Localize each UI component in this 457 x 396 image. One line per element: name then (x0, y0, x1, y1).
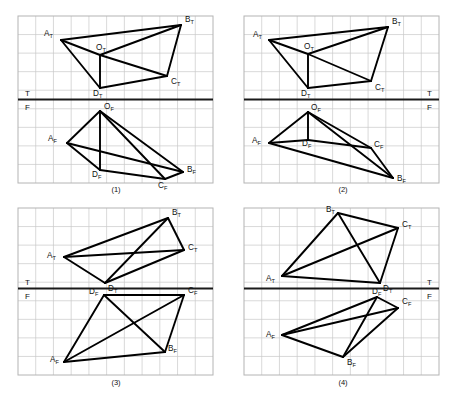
edge-B_F-O_F (100, 111, 183, 172)
vertex-label-A_F: AF (252, 136, 261, 146)
vertex-label-A_T: AT (47, 251, 56, 261)
vertex-label-subscript: F (194, 290, 198, 296)
vertex-label-subscript: T (331, 209, 335, 215)
edge-D_F-A_F (64, 295, 104, 362)
vertex-label-subscript: F (380, 144, 384, 150)
panel-2-top_view: ATBTCTDTOT (253, 17, 401, 99)
edge-B_T-D_T (105, 218, 168, 283)
panel-3-top_view: ATBTCTDT (47, 208, 198, 294)
panel-4-top_view: ATBTCTDT (266, 205, 412, 294)
vertex-label-O_T: OT (304, 42, 314, 52)
vertex-label-D_T: DT (383, 284, 393, 294)
panel-4-front_view: AFBFCFDF (266, 287, 412, 368)
panel-2-front-view-marker: F (427, 103, 432, 112)
edge-C_F-D_F (308, 140, 371, 148)
vertex-label-subscript: F (352, 362, 356, 368)
edge-C_T-D_T (308, 81, 371, 88)
vertex-label-A_T: AT (266, 274, 275, 284)
vertex-label-B_F: BF (397, 174, 406, 184)
panel-1-caption: (1) (111, 185, 121, 194)
panel-4-frame (244, 208, 439, 375)
panel-1-front_view: AFBFCFDFOF (48, 102, 196, 191)
panel-4: TFATBTCTDTAFBFCFDF(4) (244, 205, 439, 387)
vertex-label-C_T: CT (171, 77, 181, 87)
vertex-label-subscript: T (258, 34, 262, 40)
edge-C_F-O_F (100, 111, 165, 179)
vertex-label-subscript: F (53, 138, 57, 144)
vertex-label-A_F: AF (48, 134, 57, 144)
vertex-label-subscript: T (190, 19, 194, 25)
vertex-label-subscript: F (192, 169, 196, 175)
panel-2: TFATBTCTDTOTAFBFCFDFOF(2) (244, 16, 439, 194)
vertex-label-subscript: F (402, 178, 406, 184)
panel-3-front_view: AFBFCFDF (50, 286, 198, 365)
vertex-label-O_F: OF (104, 102, 114, 112)
vertex-label-subscript: T (271, 278, 275, 284)
edge-C_T-D_T (100, 76, 167, 88)
vertex-label-subscript: F (55, 359, 59, 365)
vertex-label-subscript: F (110, 106, 114, 112)
panel-1-top_view: ATBTCTDTOT (44, 15, 194, 99)
panels-layer: TFATBTCTDTOTAFBFCFDFOF(1)TFATBTCTDTOTAFB… (18, 15, 439, 387)
vertex-label-subscript: T (52, 255, 56, 261)
edge-B_T-D_T (338, 213, 380, 283)
vertex-label-subscript: F (164, 185, 168, 191)
vertex-label-B_F: BF (347, 358, 356, 368)
panel-3-caption: (3) (111, 378, 121, 387)
vertex-label-C_T: CT (375, 83, 385, 93)
panel-1: TFATBTCTDTOTAFBFCFDFOF(1) (18, 15, 213, 194)
panel-1-top-view-marker: T (25, 89, 30, 98)
edge-A_F-B_F (282, 335, 343, 357)
vertex-label-subscript: F (271, 334, 275, 340)
edge-A_T-B_T (282, 213, 338, 276)
vertex-label-subscript: T (102, 47, 106, 53)
edge-B_F-D_F (343, 297, 377, 357)
vertex-label-subscript: F (98, 174, 102, 180)
edge-C_F-D_F (377, 297, 398, 308)
panel-1-front-view-marker: F (25, 103, 30, 112)
vertex-label-subscript: F (173, 348, 177, 354)
vertex-label-subscript: T (177, 81, 181, 87)
vertex-label-O_F: OF (311, 103, 321, 113)
edge-B_F-C_F (165, 172, 183, 179)
drawing-root: TFATBTCTDTOTAFBFCFDFOF(1)TFATBTCTDTOTAFB… (0, 0, 457, 396)
vertex-label-D_F: DF (92, 170, 102, 180)
vertex-label-A_T: AT (253, 30, 262, 40)
vertex-label-subscript: F (308, 143, 312, 149)
vertex-label-subscript: T (49, 33, 53, 39)
panel-2-front_view: AFBFCFDFOF (252, 103, 406, 184)
vertex-label-O_T: OT (96, 43, 106, 53)
edge-B_T-C_T (167, 25, 181, 76)
vertex-label-subscript: T (408, 224, 412, 230)
vertex-label-subscript: T (99, 93, 103, 99)
vertex-label-subscript: F (317, 107, 321, 113)
vertex-label-subscript: T (397, 21, 401, 27)
panel-3-front-view-marker: F (25, 292, 30, 301)
vertex-label-C_T: CT (402, 220, 412, 230)
vertex-label-subscript: T (381, 87, 385, 93)
vertex-label-subscript: T (114, 288, 118, 294)
vertex-label-subscript: T (389, 288, 393, 294)
vertex-label-B_T: BT (392, 17, 401, 27)
vertex-label-subscript: F (408, 301, 412, 307)
vertex-label-A_T: AT (44, 29, 53, 39)
panel-3-top-view-marker: T (25, 278, 30, 287)
edge-B_T-C_T (371, 27, 388, 81)
vertex-label-subscript: T (307, 93, 311, 99)
vertex-label-D_T: DT (108, 284, 118, 294)
edge-D_T-A_T (64, 257, 105, 283)
edge-B_F-D_F (104, 295, 165, 352)
vertex-label-C_F: CF (402, 297, 412, 307)
vertex-label-subscript: T (177, 212, 181, 218)
edge-C_F-D_F (100, 170, 165, 179)
panel-4-top-view-marker: T (427, 278, 432, 287)
vertex-label-subscript: T (310, 46, 314, 52)
panel-4-front-view-marker: F (427, 292, 432, 301)
vertex-label-B_T: BT (172, 208, 181, 218)
panel-4-caption: (4) (338, 378, 348, 387)
panel-4-grid (244, 208, 439, 375)
edge-C_T-O_T (100, 55, 167, 76)
edge-C_T-D_T (105, 250, 184, 283)
edge-C_F-O_F (308, 112, 371, 148)
panel-3: TFATBTCTDTAFBFCFDF(3) (18, 208, 213, 387)
